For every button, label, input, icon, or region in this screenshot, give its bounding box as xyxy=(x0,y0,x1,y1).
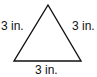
bottom-side-label: 3 in. xyxy=(35,64,58,76)
right-side-label: 3 in. xyxy=(72,20,95,32)
triangle xyxy=(14,5,81,61)
left-side-label: 3 in. xyxy=(1,20,24,32)
